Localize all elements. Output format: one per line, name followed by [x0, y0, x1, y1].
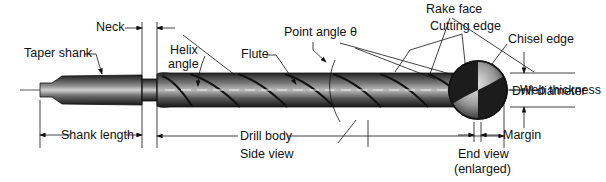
label-shank-length: Shank length: [61, 128, 134, 142]
label-flute: Flute: [241, 47, 269, 61]
label-taper-shank: Taper shank: [24, 46, 93, 60]
end-view: [448, 61, 507, 119]
label-enlarged: (enlarged): [454, 162, 511, 176]
label-neck: Neck: [96, 20, 125, 34]
label-web-thickness: Web thickness: [520, 83, 601, 97]
label-helix-line2: angle: [168, 57, 199, 71]
label-helix-line1: Helix: [170, 43, 199, 57]
label-rake-face: Rake face: [426, 2, 482, 16]
label-margin: Margin: [503, 128, 541, 142]
label-chisel-edge: Chisel edge: [508, 32, 574, 46]
label-end-view: End view: [458, 147, 510, 161]
neck: [142, 79, 157, 101]
drill-diagram: Neck Taper shank Helix angle Flute Point…: [0, 0, 606, 182]
label-drill-body: Drill body: [240, 129, 293, 143]
label-point-angle: Point angle θ: [284, 25, 357, 39]
margin-dimension: [458, 122, 499, 142]
diagram-svg: Neck Taper shank Helix angle Flute Point…: [0, 0, 606, 182]
label-side-view: Side view: [240, 147, 294, 161]
taper-shank: [40, 75, 142, 105]
label-cutting-edge: Cutting edge: [430, 19, 501, 33]
